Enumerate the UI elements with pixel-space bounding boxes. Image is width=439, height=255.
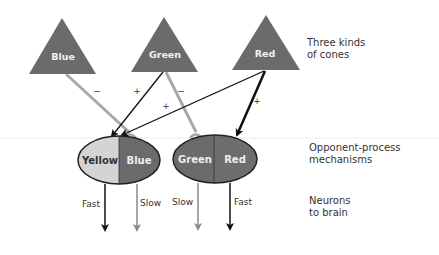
- cones-label: Three kinds of cones: [307, 37, 365, 61]
- sign-red-plus: +: [253, 96, 261, 106]
- mechanism-blue-label: Blue: [127, 155, 152, 166]
- mechanisms-label: Opponent-process mechanisms: [309, 142, 400, 166]
- green-red-mechanism: Green Red: [172, 133, 258, 185]
- cone-green: Green: [131, 17, 198, 72]
- neurons-label: Neurons to brain: [309, 195, 351, 219]
- blue-cone-inhibit-connection: [66, 74, 136, 138]
- opponent-process-diagram: − + − + + Blue Green Red Yellow Blue: [0, 0, 439, 255]
- speed-label-fast-2: Fast: [234, 197, 253, 207]
- speed-label-fast-1: Fast: [82, 199, 101, 209]
- cone-blue: Blue: [29, 18, 96, 74]
- speed-label-slow-1: Slow: [140, 198, 161, 208]
- yellow-blue-mechanism: Yellow Blue: [76, 134, 162, 186]
- green-to-yellow-arrow: [112, 72, 163, 136]
- cone-green-label: Green: [149, 49, 181, 60]
- speed-label-slow-2: Slow: [172, 197, 193, 207]
- sign-green-minus: −: [177, 86, 185, 96]
- cone-red-label: Red: [255, 48, 276, 59]
- sign-green-plus: +: [133, 86, 141, 96]
- cone-blue-label: Blue: [51, 51, 75, 62]
- sign-blue-minus: −: [93, 86, 101, 96]
- mechanism-green-label: Green: [178, 154, 212, 165]
- cone-red: Red: [232, 15, 300, 70]
- green-cone-inhibit-connection: [166, 72, 202, 138]
- sign-red-to-yellow-plus: +: [162, 101, 170, 111]
- mechanism-red-label: Red: [224, 154, 246, 165]
- mechanism-yellow-label: Yellow: [81, 155, 118, 166]
